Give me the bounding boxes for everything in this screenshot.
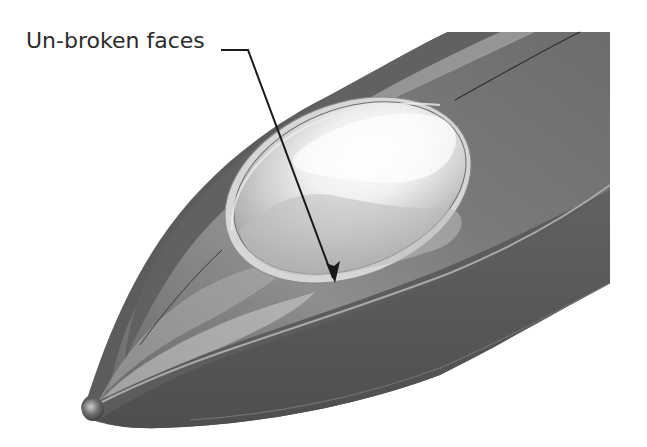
hull-model-illustration [0, 0, 647, 447]
callout-label: Un-broken faces [26, 28, 205, 53]
nose-tip [82, 399, 104, 421]
cad-figure: Un-broken faces [0, 0, 647, 447]
